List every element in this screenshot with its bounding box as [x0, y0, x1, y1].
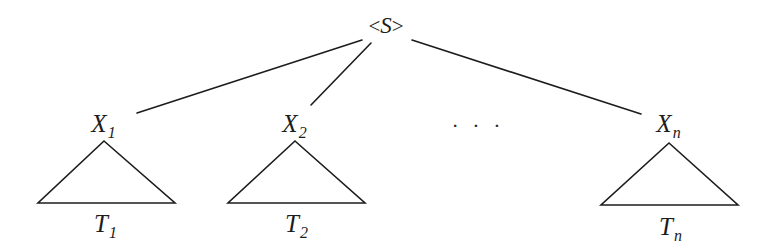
child-node-1-subscript: 1	[108, 124, 116, 141]
subtree-triangle-n	[601, 143, 738, 205]
child-node-2: X2	[282, 111, 305, 136]
subtree-label-n-base: T	[659, 213, 673, 240]
root-open-angle: <	[368, 14, 380, 38]
child-node-n-subscript: n	[673, 124, 681, 141]
child-node-n: Xn	[656, 111, 679, 136]
subtree-label-1: T1	[94, 211, 116, 236]
edge-root-to-x2	[311, 43, 371, 105]
edge-root-to-x1	[137, 40, 362, 113]
root-node: <S>	[368, 14, 403, 37]
subtree-label-2: T2	[285, 211, 307, 236]
subtree-label-2-subscript: 2	[300, 224, 308, 241]
subtree-label-1-base: T	[94, 210, 108, 237]
subtree-triangle-2	[228, 141, 365, 203]
child-node-2-subscript: 2	[299, 124, 307, 141]
child-node-1-base: X	[91, 110, 106, 137]
parse-tree-diagram: <S> X1 X2 Xn · · · T1 T2 Tn	[0, 0, 773, 252]
root-close-angle: >	[392, 14, 404, 38]
child-node-n-base: X	[656, 110, 671, 137]
edge-group	[137, 40, 641, 114]
edge-root-to-xn	[412, 40, 641, 114]
root-symbol: S	[380, 13, 392, 38]
child-node-1: X1	[91, 111, 114, 136]
child-node-2-base: X	[282, 110, 297, 137]
subtree-triangle-group	[38, 141, 738, 205]
subtree-label-1-subscript: 1	[109, 224, 117, 241]
subtree-label-n-subscript: n	[674, 227, 682, 244]
subtree-label-n: Tn	[659, 214, 681, 239]
subtree-label-2-base: T	[285, 210, 299, 237]
ellipsis: · · ·	[452, 115, 505, 137]
subtree-triangle-1	[38, 141, 175, 203]
